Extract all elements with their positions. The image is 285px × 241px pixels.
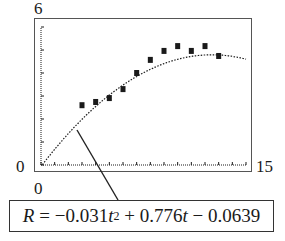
data-point	[93, 99, 98, 105]
data-point	[148, 57, 153, 63]
equation-box: R = −0.031 t 2 + 0.776 t − 0.0639	[9, 200, 274, 232]
data-point	[80, 102, 85, 108]
data-points	[80, 43, 222, 108]
equation-part: − 0.0639	[188, 205, 260, 227]
data-point	[134, 70, 139, 76]
equation-var: R	[23, 205, 35, 227]
data-point	[189, 48, 194, 54]
data-point	[121, 86, 126, 92]
data-point	[107, 95, 112, 101]
axes	[41, 27, 246, 165]
equation-part: = −0.031	[34, 205, 108, 227]
data-point	[216, 53, 221, 59]
model-curve	[42, 55, 246, 165]
data-point	[203, 43, 208, 49]
data-point	[175, 43, 180, 49]
data-point	[162, 48, 167, 54]
equation-part: + 0.776	[119, 205, 182, 227]
